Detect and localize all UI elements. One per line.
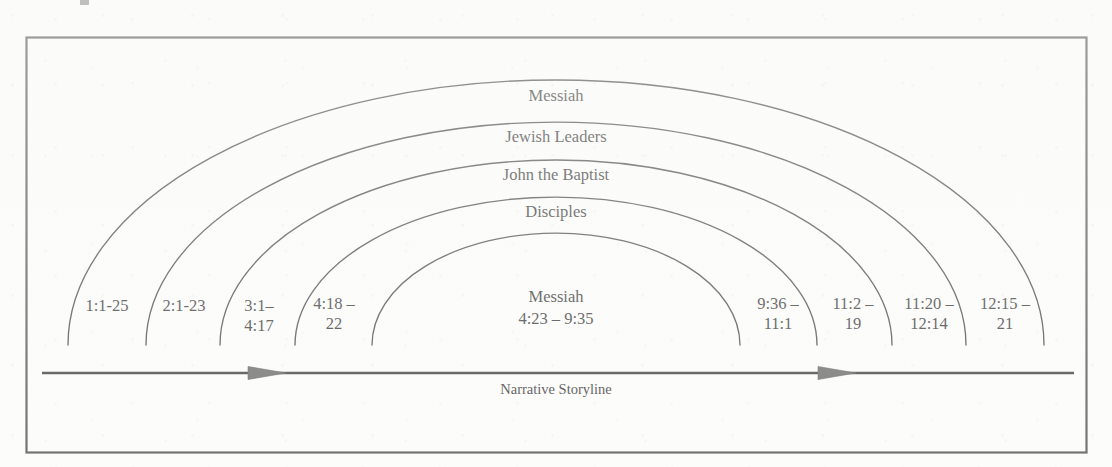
arc-label-disciples: Disciples (525, 202, 586, 221)
storyline-arrowhead-right (818, 367, 856, 380)
segment-label-left-4-line1: 4:18 – (313, 294, 355, 313)
arc-label-messiah: Messiah (529, 86, 584, 105)
figure-page: Messiah Jewish Leaders John the Baptist … (0, 0, 1112, 467)
segment-label-right-2-line2: 19 (845, 314, 862, 333)
center-label-line1: Messiah (529, 287, 584, 306)
segment-label-right-4-line2: 21 (997, 314, 1014, 333)
segment-label-right-1-line1: 9:36 – (757, 294, 799, 313)
segment-label-left-3-line1: 3:1– (244, 296, 273, 315)
arc-label-jewish-leaders: Jewish Leaders (505, 127, 606, 146)
segment-label-right-1-line2: 11:1 (764, 314, 793, 333)
segment-label-left-3-line2: 4:17 (244, 316, 273, 335)
narrative-storyline-axis (42, 367, 1074, 380)
segment-label-right-3-line1: 11:20 – (904, 294, 953, 313)
arc-label-john-the-baptist: John the Baptist (503, 165, 609, 184)
segment-label-right-3-line2: 12:14 (910, 314, 948, 333)
segment-label-left-2: 2:1-23 (162, 296, 205, 315)
segment-label-left-1: 1:1-25 (85, 296, 128, 315)
storyline-arrowhead-left (248, 367, 286, 380)
axis-label-narrative-storyline: Narrative Storyline (500, 381, 612, 398)
segment-label-right-4-line1: 12:15 – (980, 294, 1030, 313)
segment-label-left-4-line2: 22 (326, 314, 343, 333)
center-label-line2: 4:23 – 9:35 (518, 309, 593, 328)
segment-label-right-2-line1: 11:2 – (832, 294, 873, 313)
